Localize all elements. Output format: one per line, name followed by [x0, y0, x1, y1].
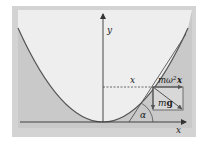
gravity-g: g	[167, 98, 174, 108]
y-axis-label: y	[106, 25, 113, 35]
tangent-angle-label: α	[140, 110, 146, 120]
centrifugal-mass-omega: mω	[158, 75, 173, 85]
centrifugal-x: x	[176, 75, 183, 85]
x-axis-label: x	[176, 125, 181, 135]
horizontal-distance-label: x	[130, 75, 135, 85]
parabola-force-diagram: y x x mω2x mg α	[0, 0, 200, 148]
gravity-force-label: mg	[158, 98, 174, 108]
gravity-m: m	[158, 98, 167, 108]
svg-text:mω2x: mω2x	[158, 75, 183, 85]
centrifugal-force-label: mω2x	[158, 75, 183, 85]
svg-text:mg: mg	[158, 98, 174, 108]
